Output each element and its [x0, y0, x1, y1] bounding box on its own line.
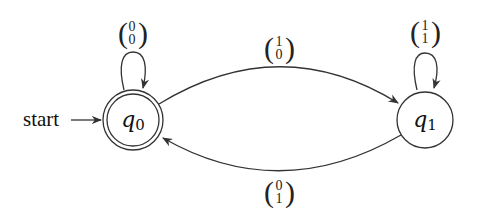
- left-paren: (: [410, 15, 420, 49]
- vector-bottom: 1: [422, 31, 429, 46]
- transition-label-q0-q0: ( 0 0 ): [118, 16, 148, 50]
- transition-label-q1-q0: ( 0 1 ): [264, 175, 295, 209]
- edge-q0-to-q1: [159, 67, 398, 104]
- left-paren: (: [118, 16, 128, 50]
- right-paren: ): [431, 15, 441, 49]
- vector-bottom: 1: [276, 191, 283, 206]
- right-paren: ): [285, 31, 295, 65]
- transition-label-q0-q1: ( 1 0 ): [264, 31, 295, 65]
- transition-label-q1-q1: ( 1 1 ): [410, 15, 441, 49]
- self-loop-q0: [121, 52, 145, 90]
- edge-q1-to-q0: [163, 135, 401, 171]
- right-paren: ): [138, 16, 148, 50]
- automaton-diagram: start q0 q1 ( 0 0 ) ( 1 0 ) (: [0, 0, 477, 219]
- left-paren: (: [264, 31, 274, 65]
- state-q0[interactable]: q0: [103, 90, 163, 150]
- state-q1[interactable]: q1: [397, 92, 453, 148]
- vector-bottom: 0: [129, 32, 136, 47]
- right-paren: ): [285, 175, 295, 209]
- left-paren: (: [264, 175, 274, 209]
- start-label: start: [23, 107, 59, 131]
- start-indicator: start: [23, 107, 101, 131]
- vector-bottom: 0: [276, 47, 283, 62]
- self-loop-q1: [414, 53, 437, 90]
